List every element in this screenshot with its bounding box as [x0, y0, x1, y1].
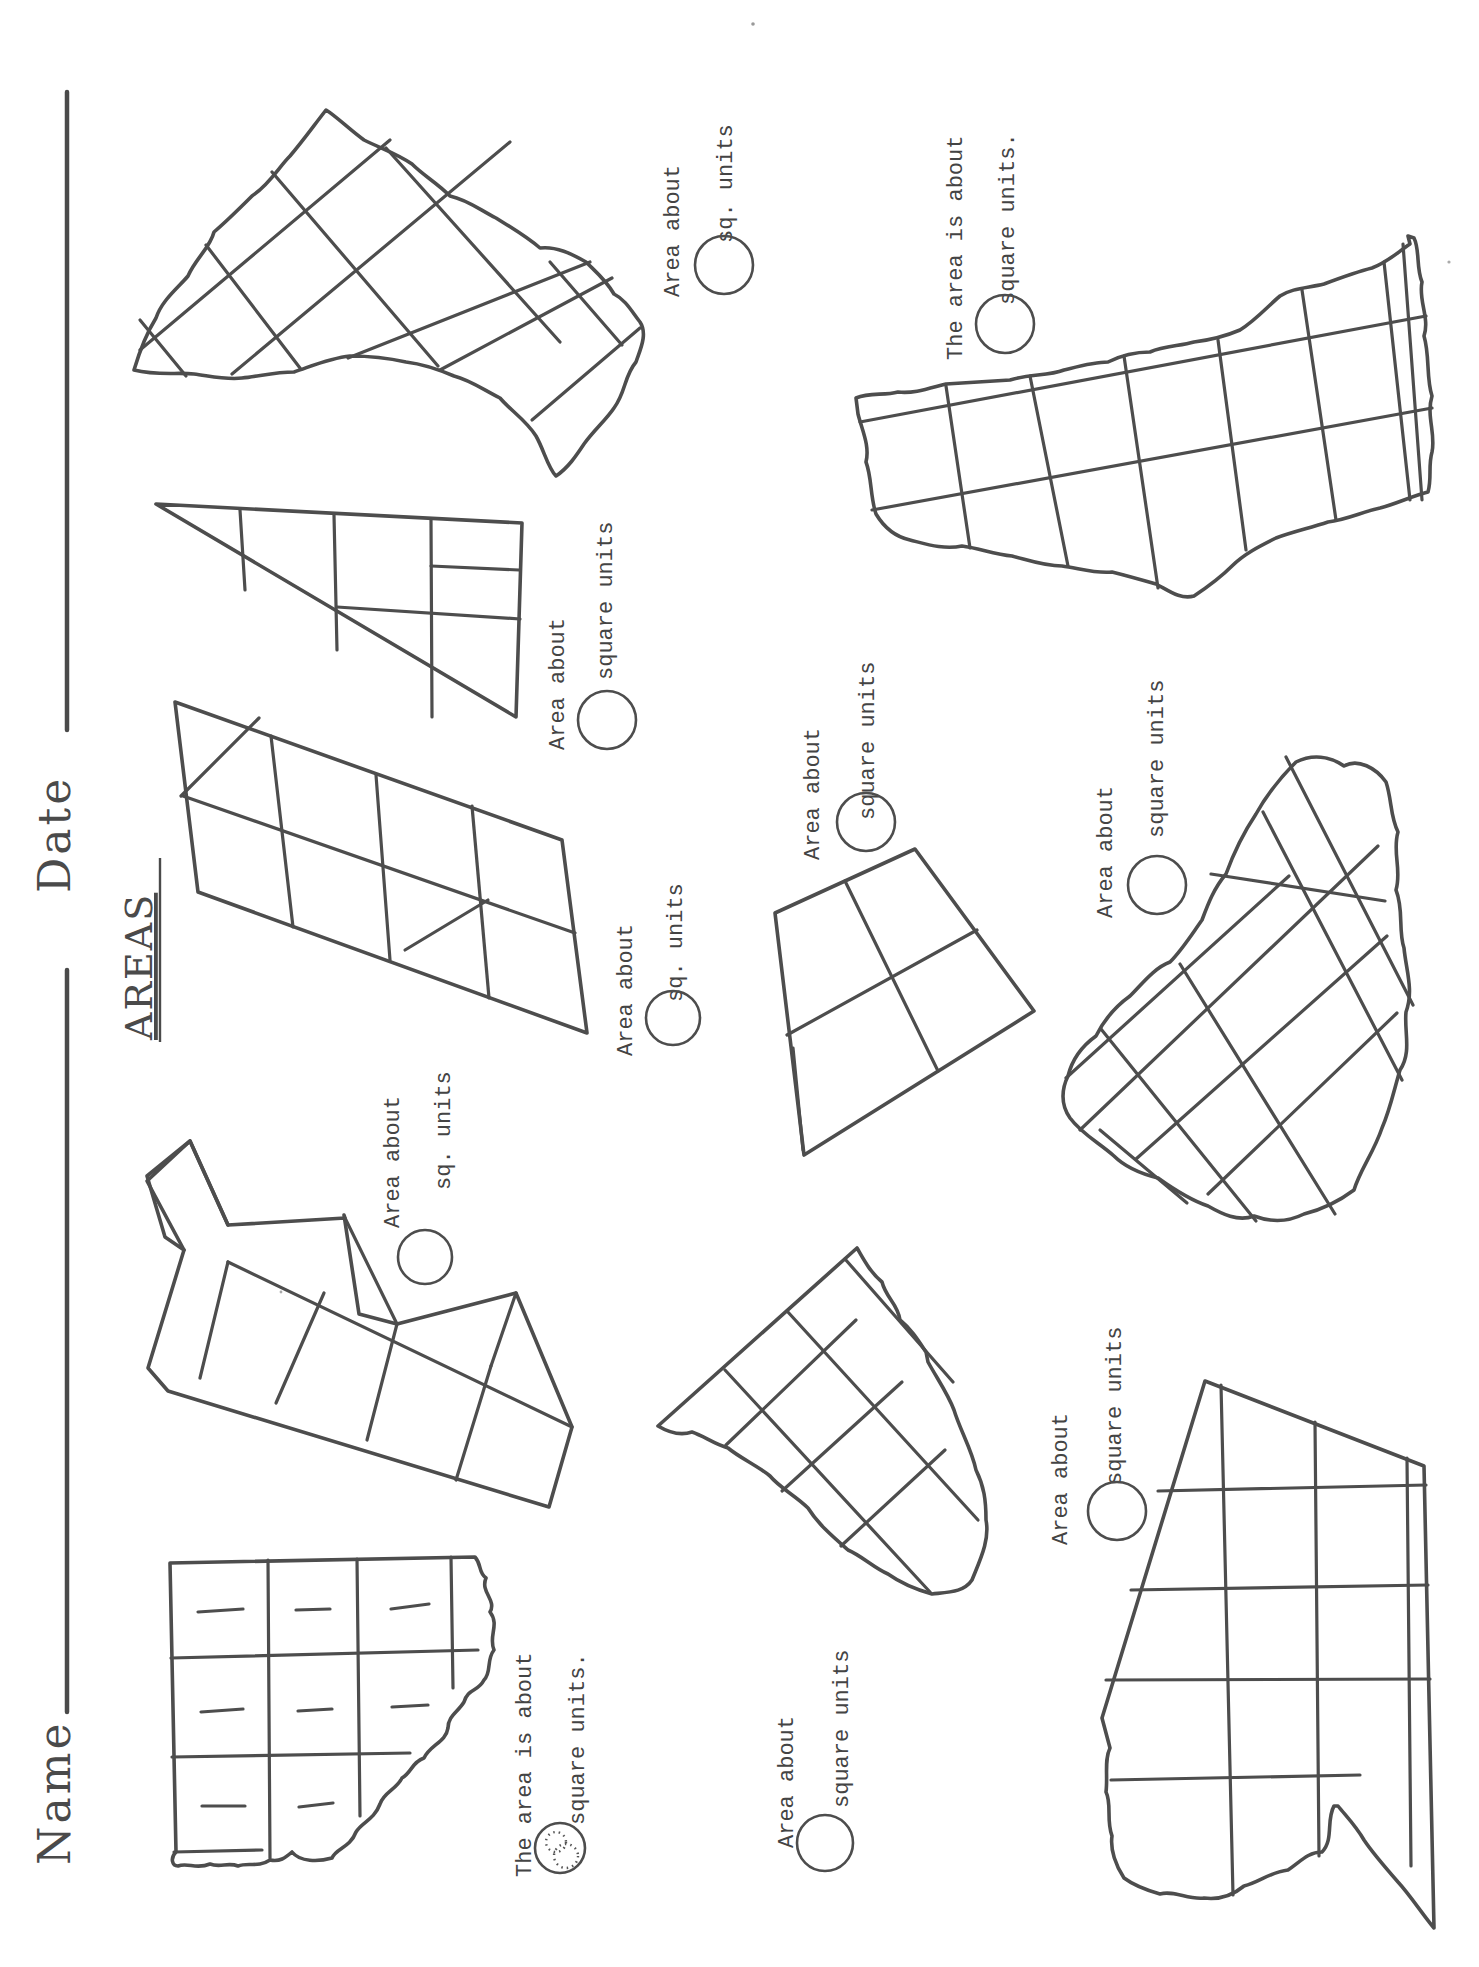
date-label: Date [29, 776, 80, 893]
worksheet-page: Name Date AREAS The area is about square… [0, 0, 1479, 1967]
answer-label-line1: Area about [775, 1716, 800, 1848]
answer-group-torn-rectangle: The area is about square units. [944, 133, 1034, 360]
answer-circle[interactable] [797, 1815, 853, 1871]
answer-group-example: The area is about square units. [513, 1653, 591, 1877]
answer-label-line2: square units. [566, 1653, 591, 1825]
answer-group-torn-blob: Area about square units [1094, 680, 1186, 918]
answer-label-line1: Area about [661, 165, 686, 297]
date-field[interactable]: Date [29, 92, 80, 893]
answer-group-torn-pentagon: Area about square units [775, 1650, 855, 1871]
answer-label-line2: square units. [996, 133, 1021, 305]
scan-speck [280, 1291, 283, 1294]
answer-label-line2: square units [1103, 1327, 1128, 1485]
answer-label-line1: Area about [801, 728, 826, 860]
answer-circle[interactable] [398, 1230, 452, 1284]
answer-label-line1: Area about [381, 1096, 406, 1228]
answer-label-line1: Area about [546, 618, 571, 750]
answer-circle[interactable] [1088, 1482, 1146, 1540]
name-field[interactable]: Name [29, 970, 80, 1865]
answer-circle[interactable] [695, 236, 753, 294]
shape-trapezoid-notch [1102, 1381, 1434, 1928]
answer-label-line1: Area about [1049, 1413, 1074, 1545]
answer-label-line2: sq. units [714, 124, 739, 243]
answer-circle[interactable] [1128, 856, 1186, 914]
answer-label-line1: Area about [1094, 786, 1119, 918]
shape-torn-triangle [134, 110, 643, 476]
answer-group-zigzag: Area about sq. units [381, 1071, 457, 1284]
answer-label-line2: square units [1145, 680, 1170, 838]
scan-speck [1447, 260, 1450, 263]
answer-label-line2: sq. units [432, 1071, 457, 1190]
shape-right-triangle [156, 504, 522, 717]
page-title: AREAS [117, 893, 161, 1041]
scan-speck [751, 22, 755, 26]
answer-circle[interactable] [535, 1823, 585, 1873]
answer-group-small-quad: Area about square units [801, 662, 895, 860]
answer-label-line2: sq. units [664, 883, 689, 1002]
answer-circle[interactable] [578, 691, 636, 749]
answer-label-line1: The area is about [944, 136, 969, 360]
traced-answer-8-bottom [554, 1844, 578, 1868]
answer-group-trapezoid: Area about square units [1049, 1327, 1146, 1545]
shape-example-torn-grid [170, 1557, 494, 1866]
answer-group-parallelogram: Area about sq. units [614, 883, 700, 1056]
shape-torn-pentagon [658, 1248, 987, 1594]
shape-parallelogram [175, 702, 587, 1033]
shape-zigzag-strip [147, 1141, 572, 1507]
answer-label-line1: Area about [614, 924, 639, 1056]
shape-small-quad [775, 849, 1034, 1155]
shape-torn-rectangle [856, 236, 1433, 597]
name-label: Name [29, 1721, 80, 1866]
answer-group-right-triangle: Area about square units [546, 522, 636, 750]
answer-label-line2: square units [830, 1650, 855, 1808]
answer-group-torn-triangle: Area about sq. units [661, 124, 753, 297]
answer-label-line2: square units [594, 522, 619, 680]
